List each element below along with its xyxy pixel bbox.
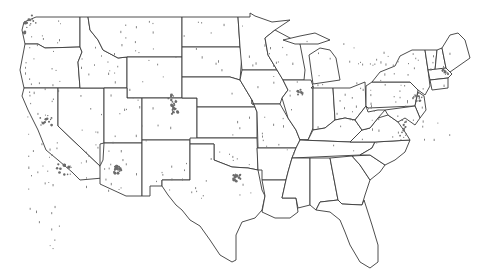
point [370, 94, 371, 96]
point [337, 113, 338, 115]
point [370, 90, 371, 91]
point [30, 103, 31, 104]
point [414, 95, 415, 96]
state-pa [366, 82, 418, 108]
cluster-point [175, 101, 176, 102]
point [36, 211, 37, 214]
point [239, 127, 240, 129]
point [273, 124, 274, 126]
point [237, 158, 238, 159]
point [43, 38, 44, 40]
point [34, 92, 35, 94]
point [265, 44, 266, 47]
point [206, 180, 207, 182]
point [344, 107, 345, 109]
cluster-point [45, 119, 47, 121]
point [119, 189, 120, 190]
point [394, 96, 395, 97]
point [393, 65, 394, 68]
point [263, 140, 264, 141]
point [96, 144, 97, 145]
point [352, 97, 353, 99]
point [86, 186, 87, 188]
point [141, 125, 142, 127]
point [360, 88, 361, 89]
point [153, 31, 154, 33]
point [352, 111, 353, 112]
point [121, 150, 122, 152]
point [371, 103, 372, 105]
point [30, 208, 31, 210]
point [108, 73, 109, 75]
cluster-point [47, 115, 48, 116]
point [443, 66, 444, 68]
state-ks [197, 107, 257, 138]
point [51, 212, 52, 214]
point [43, 166, 44, 167]
point [86, 177, 87, 178]
point [53, 51, 54, 52]
cluster-point [406, 133, 407, 134]
point [30, 95, 31, 97]
point [282, 47, 283, 48]
point [101, 114, 102, 115]
point [27, 116, 28, 117]
point [196, 191, 197, 192]
point [232, 156, 233, 158]
cluster-point [115, 165, 118, 168]
point [414, 67, 415, 69]
point [86, 152, 87, 153]
cluster-point [403, 124, 405, 126]
cluster-point [173, 95, 174, 96]
point [431, 68, 432, 71]
point [258, 86, 259, 88]
point [397, 115, 398, 117]
cluster-point [405, 135, 406, 136]
point [437, 123, 438, 124]
point [273, 65, 274, 67]
point [433, 62, 434, 64]
cluster-point [232, 177, 234, 179]
point [81, 95, 82, 97]
cluster-point [172, 97, 173, 98]
point [278, 61, 279, 62]
point [110, 164, 111, 166]
point [31, 83, 32, 85]
point [372, 128, 373, 131]
point [345, 94, 346, 96]
point [398, 61, 399, 62]
point [111, 183, 112, 185]
state-wa [22, 17, 80, 48]
point [287, 149, 288, 150]
cluster-point [403, 137, 404, 138]
point [343, 43, 344, 45]
cluster-point [419, 100, 421, 102]
cluster-point [415, 100, 417, 102]
cluster-point [442, 70, 443, 71]
point [252, 64, 253, 66]
point [191, 191, 192, 193]
point [229, 154, 230, 155]
point [37, 171, 38, 173]
point [162, 174, 163, 176]
point [250, 192, 251, 193]
point [52, 154, 53, 156]
state-mi [309, 48, 340, 84]
cluster-point [71, 167, 72, 168]
state-mi-up [283, 33, 330, 44]
point [111, 94, 112, 96]
cluster-point [32, 20, 34, 22]
point [216, 63, 217, 65]
point [362, 139, 363, 140]
point [362, 64, 363, 66]
point [400, 97, 401, 99]
cluster-point [412, 98, 413, 99]
state-boundaries-layer [20, 13, 470, 268]
point [400, 90, 401, 92]
point [262, 133, 263, 135]
point [139, 52, 140, 53]
cluster-point [239, 174, 241, 176]
point [122, 44, 123, 46]
point [163, 76, 164, 77]
point [158, 125, 159, 127]
